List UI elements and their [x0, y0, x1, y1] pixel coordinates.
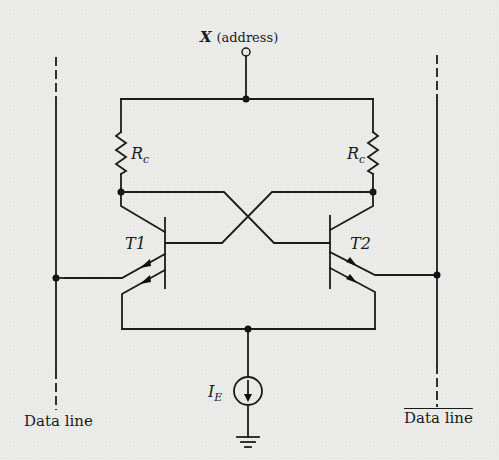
- current-source-label: IE: [208, 384, 222, 400]
- resistor-left-subscript: c: [143, 153, 149, 166]
- current-source-subscript: E: [214, 391, 222, 404]
- data-line-left: [53, 57, 66, 410]
- circuit-schematic: [0, 0, 499, 460]
- transistor-t2: [330, 192, 437, 329]
- address-label: X (address): [200, 30, 278, 45]
- data-line-right: [434, 55, 441, 407]
- resistor-right: [368, 99, 378, 196]
- resistor-left: [116, 99, 126, 196]
- current-source: [234, 329, 262, 437]
- resistor-right-label: Rc: [347, 146, 365, 162]
- ground-icon: [237, 437, 259, 447]
- data-line-left-label: Data line: [24, 414, 93, 429]
- address-suffix: (address): [216, 30, 278, 45]
- resistor-left-label: Rc: [131, 146, 149, 162]
- transistor-t1: [65, 192, 165, 329]
- data-line-right-label: Data line: [404, 411, 473, 426]
- resistor-right-symbol: R: [347, 144, 359, 163]
- cross-coupling: [121, 192, 373, 243]
- address-x: X: [200, 28, 212, 46]
- resistor-left-symbol: R: [131, 144, 143, 163]
- t1-label: T1: [125, 236, 146, 252]
- address-terminal: [242, 48, 250, 103]
- memory-cell-diagram: X (address) Rc Rc T1 T2 IE Data line Dat…: [0, 0, 499, 460]
- t2-label: T2: [350, 236, 371, 252]
- resistor-right-subscript: c: [359, 153, 365, 166]
